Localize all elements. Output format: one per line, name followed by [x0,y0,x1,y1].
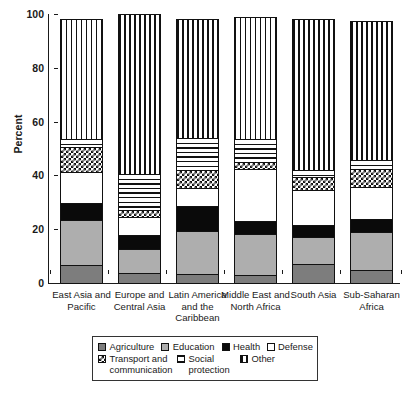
segment-agriculture [351,271,392,284]
legend-item-other[interactable]: Other [240,353,278,364]
legend-item-defense[interactable]: Defense [267,341,313,352]
segment-defense [293,191,334,226]
other-swatch-icon [240,355,248,363]
y-tick-label-0: 0 [14,278,44,289]
segment-other [293,20,334,169]
segment-social-protection [119,174,160,211]
chart-legend: Agriculture Education Health Defense Tra… [92,336,318,381]
segment-other [351,22,392,160]
legend-row-2: Transport and communication Social prote… [98,353,312,375]
legend-label-transport-and-communication: Transport and communication [110,353,173,375]
legend-label-social-protection: Social protection [189,353,230,375]
segment-education [351,233,392,271]
segment-social-protection [61,139,102,147]
segment-social-protection [351,160,392,170]
legend-label-agriculture: Agriculture [110,341,155,352]
segment-health [119,236,160,250]
legend-item-social-protection[interactable]: Social protection [177,353,233,375]
segment-other [61,20,102,139]
x-tick-mark-4 [224,270,225,274]
stacked-bar[interactable] [118,14,161,283]
stacked-bar[interactable] [234,17,277,283]
segment-health [351,220,392,233]
segment-health [235,222,276,235]
x-tick-mark-1 [50,270,51,274]
x-tick-mark-3 [166,270,167,274]
segment-transport-and-communication [293,178,334,191]
legend-item-transport-and-communication[interactable]: Transport and communication [98,353,170,375]
y-axis-ticks: 100 80 60 40 20 0 [10,0,44,290]
y-axis-line [48,14,49,283]
segment-education [235,235,276,277]
segment-defense [61,173,102,204]
y-tick-label-20: 20 [14,224,44,235]
segment-other [235,18,276,139]
segment-defense [235,170,276,221]
segment-other [177,20,218,137]
legend-label-other: Other [252,353,275,364]
transport-swatch-icon [98,355,106,363]
bar-group-5 [292,19,335,283]
legend-label-education: Education [173,341,215,352]
education-swatch-icon [161,343,169,351]
segment-other [119,15,160,174]
segment-agriculture [177,275,218,284]
segment-health [177,207,218,232]
stacked-bar[interactable] [292,19,335,283]
segment-agriculture [293,265,334,284]
segment-defense [177,189,218,207]
social-protection-swatch-icon [177,355,185,363]
legend-label-defense: Defense [278,341,313,352]
plot-area [48,14,398,283]
x-tick-mark-6 [340,270,341,274]
segment-social-protection [293,170,334,179]
legend-item-agriculture[interactable]: Agriculture [98,341,154,352]
segment-agriculture [119,274,160,284]
segment-agriculture [61,266,102,283]
bar-group-2 [118,14,161,283]
y-tick-label-40: 40 [14,170,44,181]
legend-row-1: Agriculture Education Health Defense [98,341,312,352]
segment-education [293,238,334,265]
segment-transport-and-communication [235,163,276,170]
health-swatch-icon [222,343,230,351]
x-tick-mark-2 [108,270,109,274]
x-tick-mark-5 [282,270,283,274]
bar-group-4 [234,17,277,283]
stacked-bar-chart: Percent 100 80 60 40 20 0 East Asia and … [0,0,409,397]
bar-group-1 [60,19,103,283]
y-tick-label-80: 80 [14,63,44,74]
defense-swatch-icon [267,343,275,351]
agriculture-swatch-icon [98,343,106,351]
segment-social-protection [235,139,276,163]
segment-defense [351,188,392,219]
legend-item-education[interactable]: Education [161,341,214,352]
bar-group-3 [176,19,219,283]
bar-group-6 [350,21,393,283]
x-tick-mark-7 [401,270,402,274]
x-label-6: Sub-Saharan Africa [335,289,409,312]
stacked-bar[interactable] [60,19,103,283]
segment-education [61,221,102,266]
y-tick-label-100: 100 [14,9,44,20]
segment-transport-and-communication [61,148,102,173]
segment-education [119,250,160,273]
segment-education [177,232,218,276]
segment-transport-and-communication [351,170,392,189]
segment-health [293,226,334,238]
legend-item-health[interactable]: Health [222,341,260,352]
y-tick-label-60: 60 [14,117,44,128]
segment-defense [119,218,160,237]
legend-label-health: Health [233,341,260,352]
segment-agriculture [235,276,276,284]
stacked-bar[interactable] [350,21,393,283]
segment-health [61,204,102,222]
stacked-bar[interactable] [176,19,219,283]
segment-transport-and-communication [177,171,218,188]
segment-social-protection [177,138,218,171]
